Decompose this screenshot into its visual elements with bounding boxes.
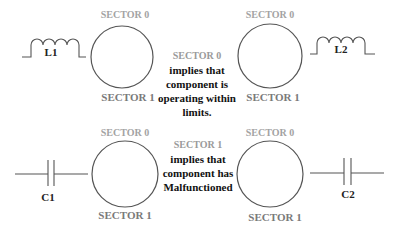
capacitor-c1-label: C1: [41, 191, 54, 203]
circle-top-left: [91, 26, 153, 88]
sector-0-label-top-left: SECTOR 0: [101, 10, 149, 20]
sector-0-label-bottom-left: SECTOR 0: [101, 128, 149, 138]
note-line: limits.: [158, 105, 236, 119]
capacitor-c1-icon: [15, 160, 88, 186]
circle-bottom-left: [92, 141, 158, 207]
note-line: implies that: [158, 63, 236, 77]
note-line: component has: [163, 166, 234, 180]
note-line: component is: [158, 77, 236, 91]
circle-bottom-right: [237, 141, 303, 207]
note-line: operating within: [158, 91, 236, 105]
note-line: Malfunctioned: [163, 180, 234, 194]
sector-1-label-top-right: SECTOR 1: [246, 92, 299, 103]
capacitor-c2-label: C2: [341, 188, 354, 200]
sector-1-label-bottom-left: SECTOR 1: [98, 210, 151, 221]
inductor-l2-label: L2: [335, 43, 348, 55]
sector-1-note: SECTOR 1 implies that component has Malf…: [163, 138, 234, 194]
circle-top-right: [238, 24, 302, 88]
sector-0-note-heading: SECTOR 0: [158, 49, 236, 63]
sector-1-label-top-left: SECTOR 1: [101, 92, 154, 103]
sector-0-label-top-right: SECTOR 0: [246, 10, 294, 20]
sector-1-note-heading: SECTOR 1: [163, 138, 234, 152]
note-line: implies that: [163, 152, 234, 166]
sector-1-label-bottom-right: SECTOR 1: [248, 212, 301, 223]
inductor-l1-label: L1: [45, 46, 58, 58]
sector-0-label-bottom-right: SECTOR 0: [246, 128, 294, 138]
sector-0-note: SECTOR 0 implies that component is opera…: [158, 49, 236, 119]
capacitor-c2-icon: [310, 158, 384, 185]
